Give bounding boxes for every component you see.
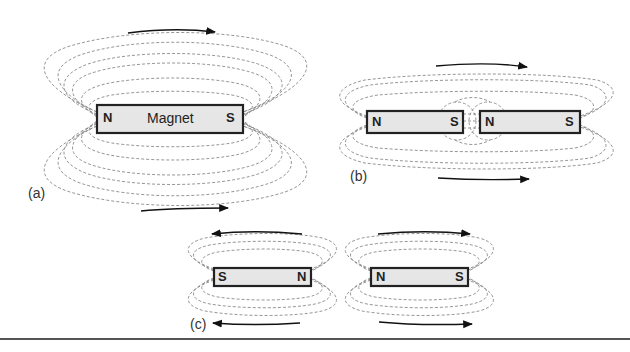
panel-label-c: (c) [190,316,206,332]
arrow-a-bottom [141,208,228,211]
panel-label-b: (b) [350,168,367,184]
panel-label-a: (a) [28,185,45,201]
figure-canvas [0,0,630,352]
magnet-a-right-pole: S [226,110,235,125]
magnet-b-left-right-pole: S [450,114,459,129]
arrow-c-bottom-right [379,322,472,325]
magnetic-field-figure: N Magnet S (a) N S N S (b) S N N S (c) [0,0,630,352]
magnet-c-left-left-pole: S [218,269,227,284]
arrow-b-top [436,64,527,67]
magnet-c-right-right-pole: S [455,269,464,284]
magnet-a-left-pole: N [103,110,112,125]
magnet-c-left-right-pole: N [297,269,306,284]
magnet-c-right-left-pole: N [376,269,385,284]
magnet-a-name: Magnet [147,110,194,126]
magnet-b-right-left-pole: N [485,114,494,129]
magnet-c-right [371,268,468,286]
arrow-c-bottom-left [213,323,300,325]
magnet-b-right-right-pole: S [565,114,574,129]
magnet-b-left [367,111,463,133]
arrow-b-bottom [438,178,529,180]
magnet-b-left-left-pole: N [372,114,381,129]
bottom-rule-divider [0,338,630,340]
